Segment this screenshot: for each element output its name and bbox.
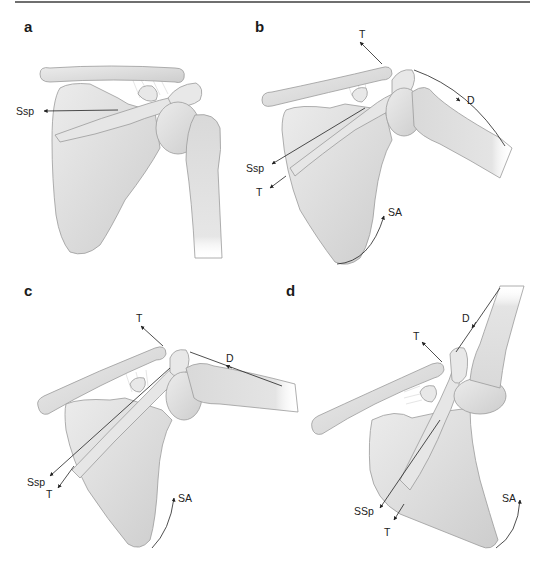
humerus-shaft-shape	[186, 115, 222, 258]
label-d-sa: SA	[502, 492, 516, 504]
label-c-sa: SA	[178, 492, 192, 504]
panel-b-illustration	[262, 42, 512, 264]
label-b-t-top: T	[359, 28, 366, 40]
clavicle-shape	[262, 67, 392, 107]
label-b-ssp: Ssp	[246, 162, 264, 174]
label-d-d: D	[462, 312, 470, 324]
label-b-d: D	[467, 94, 475, 106]
panel-d-illustration	[312, 286, 524, 548]
scapula-shape	[282, 104, 392, 264]
label-b-sa: SA	[388, 206, 402, 218]
humerus-shaft-shape	[470, 286, 524, 388]
clavicle-shape	[40, 66, 184, 83]
label-c-t-low: T	[46, 488, 53, 500]
humerus-shaft-shape	[412, 87, 512, 178]
panel-a-illustration	[40, 66, 222, 258]
label-d-t-top: T	[413, 330, 420, 342]
panel-c-illustration	[38, 326, 298, 548]
label-b-t-low: T	[256, 186, 263, 198]
label-c-t-top: T	[136, 312, 143, 324]
humerus-shaft-shape	[186, 363, 298, 412]
label-a-ssp: Ssp	[16, 105, 34, 117]
label-d-ssp: SSp	[354, 505, 374, 517]
label-d-t-low: T	[384, 526, 391, 538]
label-c-ssp: Ssp	[27, 476, 45, 488]
label-c-d: D	[226, 352, 234, 364]
